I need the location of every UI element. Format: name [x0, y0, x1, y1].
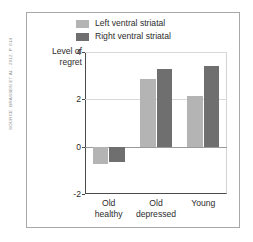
y-axis-title-line1: Level of: [30, 46, 82, 57]
source-credit: SOURCE: BRASSEN ET AL., 2012, P. 614: [8, 34, 13, 130]
bar-old-depressed-left-ventral-striatal: [140, 79, 156, 146]
legend-item-left-ventral-striatal: Left ventral striatal: [76, 18, 226, 29]
gridline-4: [85, 52, 227, 53]
y-tick-mark--2: [82, 194, 85, 195]
y-axis-title: Level of regret: [30, 46, 82, 68]
bar-old-depressed-right-ventral-striatal: [157, 69, 173, 147]
x-axis-label-line2: depressed: [132, 209, 179, 220]
y-tick-label-4: 4: [76, 47, 81, 57]
x-axis-label-line1: Young: [180, 198, 227, 209]
legend-label-right-ventral-striatal: Right ventral striatal: [95, 32, 171, 41]
bar-old-healthy-right-ventral-striatal: [109, 147, 125, 162]
legend-swatch-left-ventral-striatal: [76, 20, 89, 28]
chart-legend: Left ventral striatal Right ventral stri…: [76, 18, 226, 44]
y-tick-mark-4: [82, 52, 85, 53]
y-tick-label--2: -2: [73, 189, 81, 199]
x-axis-label-old-depressed: Olddepressed: [132, 198, 179, 219]
legend-swatch-right-ventral-striatal: [76, 33, 89, 41]
y-tick-label-2: 2: [76, 94, 81, 104]
y-tick-mark-2: [82, 99, 85, 100]
y-axis-title-line2: regret: [30, 57, 82, 68]
x-axis-label-line2: healthy: [85, 209, 132, 220]
y-tick-mark-0: [82, 147, 85, 148]
x-axis-label-line1: Old: [85, 198, 132, 209]
bar-young-left-ventral-striatal: [187, 96, 203, 147]
bar-young-right-ventral-striatal: [204, 66, 220, 146]
y-tick-label-0: 0: [76, 142, 81, 152]
x-axis-label-old-healthy: Oldhealthy: [85, 198, 132, 219]
x-axis-label-young: Young: [180, 198, 227, 209]
x-axis-label-line1: Old: [132, 198, 179, 209]
legend-item-right-ventral-striatal: Right ventral striatal: [76, 31, 226, 42]
legend-label-left-ventral-striatal: Left ventral striatal: [95, 19, 165, 28]
bar-old-healthy-left-ventral-striatal: [93, 147, 109, 165]
plot-area: 420-2 OldhealthyOlddepressedYoung: [85, 52, 227, 194]
